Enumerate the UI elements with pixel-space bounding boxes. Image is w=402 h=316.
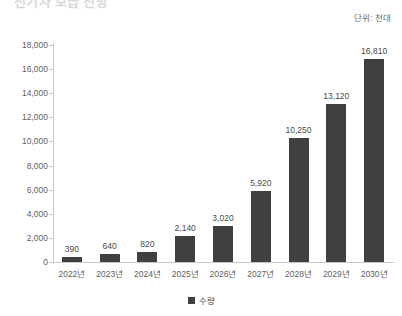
bar-slot: 2,140 [166,45,204,262]
bar-value-label: 10,250 [286,125,312,135]
y-axis-tick-label: 6,000 [0,185,48,195]
bar-value-label: 5,920 [250,178,271,188]
x-axis-tick-label: 2025년 [166,267,204,279]
bar[interactable] [213,226,233,262]
x-axis-tick-label: 2026년 [204,267,242,279]
y-axis-tick-label: 0 [0,257,48,267]
chart-legend: 수량 [0,294,402,306]
x-axis-tick-label: 2030년 [355,267,393,279]
bar-value-label: 16,810 [361,46,387,56]
y-axis-tick-label: 10,000 [0,136,48,146]
legend-label: 수량 [199,294,215,306]
x-axis-tick-label: 2029년 [317,267,355,279]
page-title: 전기차 보급 전망 [14,0,108,9]
bar-slot: 640 [91,45,129,262]
y-axis-tick-label: 12,000 [0,112,48,122]
bar-value-label: 13,120 [323,91,349,101]
bar-value-label: 640 [103,241,117,251]
unit-annotation: 단위: 천대 [354,11,391,23]
bar[interactable] [326,104,346,262]
bar-slot: 10,250 [280,45,318,262]
chart-title-cropped: 전기차 보급 전망 [0,0,402,9]
bar-value-label: 3,020 [212,213,233,223]
legend-swatch-icon [188,297,195,304]
y-axis-tick-label: 14,000 [0,88,48,98]
bar-slot: 16,810 [355,45,393,262]
bar[interactable] [62,257,82,262]
bar-value-label: 390 [65,244,79,254]
bar[interactable] [289,138,309,262]
x-axis-tick-label: 2024년 [129,267,167,279]
bar-slot: 13,120 [317,45,355,262]
bar[interactable] [137,252,157,262]
y-axis-tick-label: 4,000 [0,209,48,219]
y-axis-tick-mark [49,262,53,263]
x-axis-line [53,262,394,263]
bar-slot: 820 [129,45,167,262]
y-axis-tick-label: 18,000 [0,40,48,50]
y-axis-tick-label: 16,000 [0,64,48,74]
x-axis-tick-label: 2023년 [91,267,129,279]
plot-area: 3906408202,1403,0205,92010,25013,12016,8… [53,45,393,262]
bar-slot: 3,020 [204,45,242,262]
bar-slot: 5,920 [242,45,280,262]
y-axis-tick-label: 8,000 [0,161,48,171]
bar[interactable] [175,236,195,262]
bar[interactable] [364,59,384,262]
bar-chart: 전기차 보급 전망 단위: 천대 02,0004,0006,0008,00010… [0,0,402,316]
x-axis-tick-label: 2028년 [280,267,318,279]
x-axis-tick-label: 2022년 [53,267,91,279]
x-axis-tick-label: 2027년 [242,267,280,279]
bar-slot: 390 [53,45,91,262]
y-axis-tick-label: 2,000 [0,233,48,243]
bar[interactable] [251,191,271,262]
bar[interactable] [100,254,120,262]
bar-value-label: 820 [140,239,154,249]
bar-value-label: 2,140 [175,223,196,233]
